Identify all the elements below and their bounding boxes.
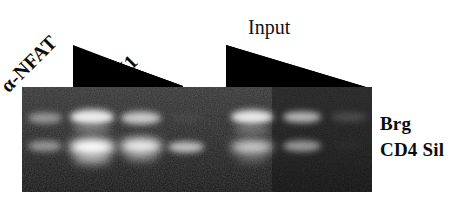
- sample-label-input: Input: [248, 16, 290, 39]
- gel-figure: α-NFAT J1 Input: [0, 0, 474, 210]
- band-label-cd4-sil: CD4 Sil: [380, 139, 444, 161]
- gel-lane-3: [120, 112, 162, 163]
- gel-lane-4: [168, 114, 204, 153]
- gel-panel: [22, 87, 372, 192]
- gel-lane-7: [331, 113, 367, 149]
- gel-lane-5: [231, 110, 273, 163]
- gel-lane-2: [69, 110, 115, 166]
- gel-lane-1: [28, 113, 62, 152]
- gradient-wedge-1-icon: [73, 42, 183, 88]
- band-label-brg: Brg: [380, 113, 411, 135]
- gel-bands-layer: [22, 87, 372, 192]
- gradient-wedge-2-icon: [226, 42, 366, 88]
- gel-lane-6: [283, 112, 321, 152]
